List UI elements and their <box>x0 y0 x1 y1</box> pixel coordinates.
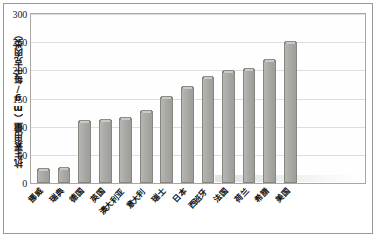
plot-area: 050100150200250300 挪威瑞典德国英国澳大利亚意大利瑞士日本西班… <box>30 13 366 184</box>
bar-body <box>181 87 194 183</box>
bar-top-cap <box>100 119 111 122</box>
y-axis-tick-label: 250 <box>13 37 27 48</box>
bar: 瑞典 <box>58 168 71 183</box>
bar: 法国 <box>222 71 235 183</box>
bar-body <box>202 77 215 183</box>
bar-top-cap <box>285 41 296 44</box>
bar: 英国 <box>99 120 112 183</box>
bar: 澳大利亚 <box>119 118 132 183</box>
bar: 希腊 <box>263 60 276 183</box>
bar: 日本 <box>181 87 194 183</box>
bar-body <box>160 97 173 183</box>
bar-body <box>99 120 112 183</box>
bar-top-cap <box>203 76 214 79</box>
y-axis-tick-label: 200 <box>13 65 27 76</box>
bar-top-cap <box>244 68 255 71</box>
bar-top-cap <box>120 117 131 120</box>
bars: 挪威瑞典德国英国澳大利亚意大利瑞士日本西班牙法国荷兰希腊美国 <box>31 14 365 183</box>
bar: 挪威 <box>37 169 50 183</box>
bar-top-cap <box>182 86 193 89</box>
bar-top-cap <box>264 59 275 62</box>
bar-top-cap <box>38 168 49 171</box>
bar: 西班牙 <box>202 77 215 183</box>
bar-body <box>243 69 256 183</box>
bar-body <box>222 71 235 183</box>
bar-top-cap <box>141 110 152 113</box>
y-axis-tick-label: 50 <box>17 149 27 160</box>
y-axis-tick-label: 0 <box>22 178 27 189</box>
bar-body <box>58 168 71 183</box>
y-axis-tick-label: 150 <box>13 93 27 104</box>
bar-body <box>37 169 50 183</box>
bar: 德国 <box>78 121 91 183</box>
bar-top-cap <box>59 167 70 170</box>
bar: 瑞士 <box>160 97 173 183</box>
bar-body <box>140 111 153 183</box>
y-axis-tick-label: 300 <box>13 9 27 20</box>
bar-body <box>263 60 276 183</box>
bar-top-cap <box>223 70 234 73</box>
bar-body <box>119 118 132 183</box>
bar: 荷兰 <box>243 69 256 183</box>
y-axis-tick-label: 100 <box>13 121 27 132</box>
bar-body <box>284 42 297 183</box>
bar: 意大利 <box>140 111 153 183</box>
bar-top-cap <box>79 120 90 123</box>
bar: 美国 <box>284 42 297 183</box>
chart-screenshot: 抗生素用量（mg/每千克肉类） 050100150200250300 挪威瑞典德… <box>0 0 378 239</box>
bar-top-cap <box>161 96 172 99</box>
bar-body <box>78 121 91 183</box>
